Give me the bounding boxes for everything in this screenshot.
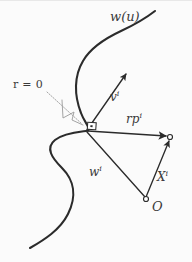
- node-rp-endpoint: [168, 135, 173, 140]
- label-vector-w-base: w: [89, 165, 99, 179]
- vector-v-arrow: [87, 74, 126, 130]
- right-angle-marker-dot-icon: [90, 125, 92, 127]
- label-vector-w-superscript: i: [99, 163, 102, 173]
- label-vector-v-base: v: [110, 90, 117, 104]
- label-vector-w: wi: [89, 166, 102, 178]
- node-origin-point: [144, 197, 149, 202]
- label-vector-v: vi: [110, 91, 119, 103]
- label-vector-rp: rpi: [126, 113, 142, 125]
- label-vector-rp-base: rp: [126, 112, 139, 126]
- label-vector-rp-superscript: i: [139, 110, 142, 120]
- label-vector-X-base: X: [157, 170, 166, 184]
- label-vector-X: Xi: [157, 171, 168, 183]
- vector-rp-arrow: [88, 131, 166, 136]
- diagram-canvas: [0, 0, 192, 262]
- label-origin: O: [152, 200, 163, 213]
- label-curve-wu: w(u): [110, 10, 140, 23]
- label-vector-v-superscript: i: [117, 88, 120, 98]
- figure-container: w(u) r = 0 vi rpi wi Xi O: [0, 0, 192, 262]
- label-radius-zero: r = 0: [13, 79, 43, 90]
- label-vector-X-superscript: i: [166, 168, 169, 178]
